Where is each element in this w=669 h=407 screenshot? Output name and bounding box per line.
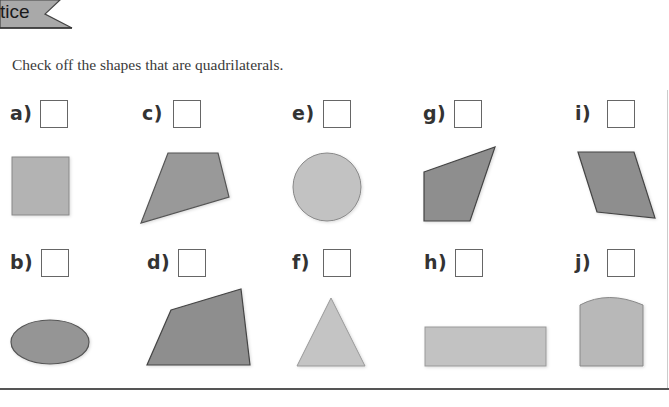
shape-parallelogram-i: [578, 152, 655, 218]
shape-rectangle-h: [425, 327, 546, 366]
shapes-canvas: [0, 0, 669, 407]
shape-quadrilateral-g: [424, 147, 495, 221]
shape-ellipse-b: [11, 320, 89, 364]
page-edge: [667, 90, 668, 390]
shape-arch-rectangle-j: [580, 298, 643, 367]
shape-quadrilateral-d: [147, 289, 250, 365]
section-divider: [0, 388, 669, 390]
shape-square-a: [12, 157, 69, 215]
shape-quadrilateral-c: [141, 153, 229, 223]
shape-triangle-f: [297, 298, 365, 366]
shape-circle-e: [293, 153, 361, 221]
